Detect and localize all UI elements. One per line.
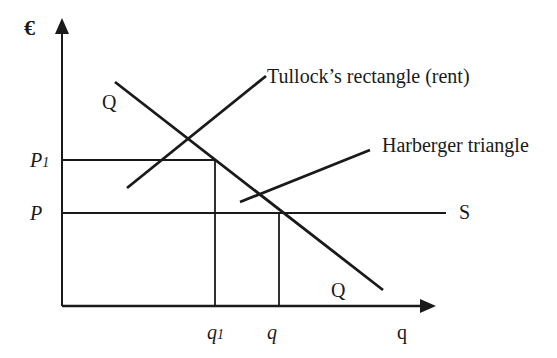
q1-label-main: q (207, 321, 217, 343)
quantity-label-q: q (267, 322, 277, 342)
x-axis-arrow-icon (420, 299, 436, 313)
p1-label-sub: 1 (42, 155, 49, 170)
quantity-label-q1: q1 (207, 322, 224, 342)
tullock-pointer (127, 76, 266, 188)
demand-line-q (115, 82, 383, 290)
p1-label-main: P (30, 149, 42, 171)
demand-label-top: Q (102, 92, 116, 112)
x-axis-label: q (397, 322, 407, 342)
price-label-p: P (30, 203, 42, 223)
price-label-p1: P1 (30, 150, 49, 170)
q1-label-sub: 1 (217, 327, 224, 342)
y-axis-arrow-icon (55, 18, 69, 34)
supply-label-s: S (459, 202, 470, 222)
y-axis-label: € (24, 17, 35, 39)
harberger-pointer (240, 150, 370, 202)
demand-label-bottom: Q (331, 280, 345, 300)
harberger-annotation: Harberger triangle (382, 135, 529, 155)
diagram-canvas (0, 0, 557, 358)
tullock-annotation: Tullock’s rectangle (rent) (267, 66, 470, 86)
